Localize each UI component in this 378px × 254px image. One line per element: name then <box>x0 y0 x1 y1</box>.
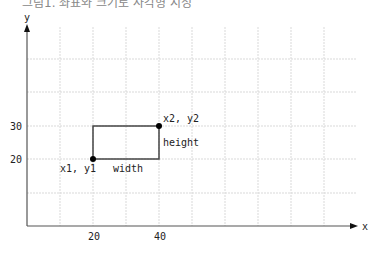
y-tick-20: 20 <box>10 154 22 165</box>
point-1-label: x1, y1 <box>60 163 96 174</box>
y-axis-label: y <box>24 12 30 23</box>
y-tick-30: 30 <box>10 121 22 132</box>
x-axis-arrow-icon <box>350 223 358 229</box>
point-1 <box>90 156 96 162</box>
point-2-label: x2, y2 <box>163 113 199 124</box>
height-label: height <box>163 137 199 148</box>
width-label: width <box>113 163 143 174</box>
y-axis <box>24 24 30 226</box>
x-tick-40: 40 <box>154 231 166 242</box>
x-axis-label: x <box>362 221 368 232</box>
x-tick-20: 20 <box>88 231 100 242</box>
grid <box>27 27 357 226</box>
coordinate-diagram: y x 20 40 30 20 x1, y1 x2, y2 width heig… <box>0 0 378 254</box>
point-2 <box>156 123 162 129</box>
y-axis-arrow-icon <box>24 24 30 32</box>
